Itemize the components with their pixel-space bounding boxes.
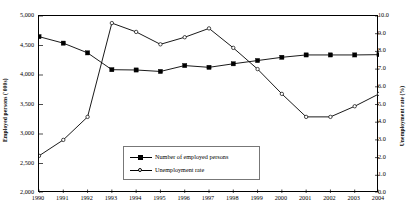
y-axis-left-tick-label: 4,000 — [20, 71, 34, 77]
filled-square-marker-icon — [130, 153, 152, 162]
x-axis-tick-label: 2002 — [323, 195, 335, 201]
data-point-marker — [255, 58, 259, 62]
data-point-marker — [86, 115, 89, 118]
data-point-marker — [377, 53, 379, 57]
data-point-marker — [39, 154, 41, 157]
data-point-marker — [232, 46, 235, 49]
x-axis-tick-label: 1998 — [226, 195, 238, 201]
y-axis-left-tick-label: 5,000 — [20, 12, 34, 18]
data-point-marker — [207, 27, 210, 30]
data-point-marker — [61, 41, 65, 45]
data-point-marker — [231, 62, 235, 66]
data-point-marker — [85, 51, 89, 55]
data-point-marker — [329, 115, 332, 118]
data-point-marker — [328, 53, 332, 57]
y-axis-right-tick-label: 7.0 — [378, 65, 386, 71]
open-circle-marker-icon — [130, 166, 152, 175]
data-point-marker — [304, 115, 307, 118]
data-point-marker — [183, 36, 186, 39]
data-point-marker — [256, 67, 259, 70]
series-line — [39, 23, 379, 156]
y-axis-right-tick-label: 6.0 — [378, 83, 386, 89]
x-axis-tick-label: 1990 — [32, 195, 44, 201]
chart-legend: Number of employed persons Unemployment … — [123, 146, 260, 180]
x-axis-tick-label: 2004 — [372, 195, 384, 201]
data-point-marker — [159, 43, 162, 46]
y-axis-left-tick-label: 2,500 — [20, 159, 34, 165]
data-point-marker — [39, 35, 41, 39]
y-axis-left-tick-label: 3,500 — [20, 100, 34, 106]
data-point-marker — [158, 69, 162, 73]
x-axis-tick-label: 2003 — [348, 195, 360, 201]
data-point-marker — [353, 53, 357, 57]
chart-container: Employed persons ('000s) Unemployment ra… — [0, 0, 408, 224]
y-axis-left-tick-label: 3,000 — [20, 130, 34, 136]
data-point-marker — [207, 65, 211, 69]
y-axis-right-tick-label: 8.0 — [378, 47, 386, 53]
x-axis-tick-label: 1996 — [178, 195, 190, 201]
data-point-marker — [377, 92, 379, 95]
y-axis-left-ticks: 2,0002,5003,0003,5004,0004,5005,000 — [8, 0, 34, 224]
y-axis-right-tick-label: 4.0 — [378, 118, 386, 124]
y-axis-right-tick-label: 2.0 — [378, 153, 386, 159]
y-axis-right-tick-label: 1.0 — [378, 171, 386, 177]
data-point-marker — [62, 138, 65, 141]
data-point-marker — [280, 55, 284, 59]
legend-item-employed: Number of employed persons — [130, 151, 259, 164]
x-axis-tick-label: 1993 — [105, 195, 117, 201]
data-point-marker — [134, 68, 138, 72]
legend-label-employed: Number of employed persons — [152, 154, 228, 160]
x-axis-tick-label: 1995 — [153, 195, 165, 201]
y-axis-right-tick-label: 5.0 — [378, 100, 386, 106]
data-point-marker — [304, 53, 308, 57]
data-point-marker — [110, 68, 114, 72]
y-axis-right-ticks: 0.01.02.03.04.05.06.07.08.09.010.0 — [378, 0, 404, 224]
x-axis-ticks: 1990199119921993199419951996199719981999… — [0, 195, 408, 207]
y-axis-right-tick-label: 3.0 — [378, 136, 386, 142]
x-axis-tick-label: 2001 — [299, 195, 311, 201]
x-axis-tick-label: 1991 — [56, 195, 68, 201]
x-axis-tick-label: 2000 — [275, 195, 287, 201]
data-point-marker — [183, 63, 187, 67]
data-point-marker — [353, 105, 356, 108]
legend-label-unemployment: Unemployment rate — [152, 167, 204, 173]
x-axis-tick-label: 1992 — [80, 195, 92, 201]
y-axis-left-tick-label: 4,500 — [20, 41, 34, 47]
data-point-marker — [134, 30, 137, 33]
data-point-marker — [110, 21, 113, 24]
data-point-marker — [280, 92, 283, 95]
x-axis-tick-label: 1999 — [250, 195, 262, 201]
x-axis-tick-label: 1997 — [202, 195, 214, 201]
legend-item-unemployment: Unemployment rate — [130, 164, 259, 177]
y-axis-right-tick-label: 10.0 — [378, 12, 389, 18]
x-axis-tick-label: 1994 — [129, 195, 141, 201]
y-axis-right-tick-label: 9.0 — [378, 30, 386, 36]
